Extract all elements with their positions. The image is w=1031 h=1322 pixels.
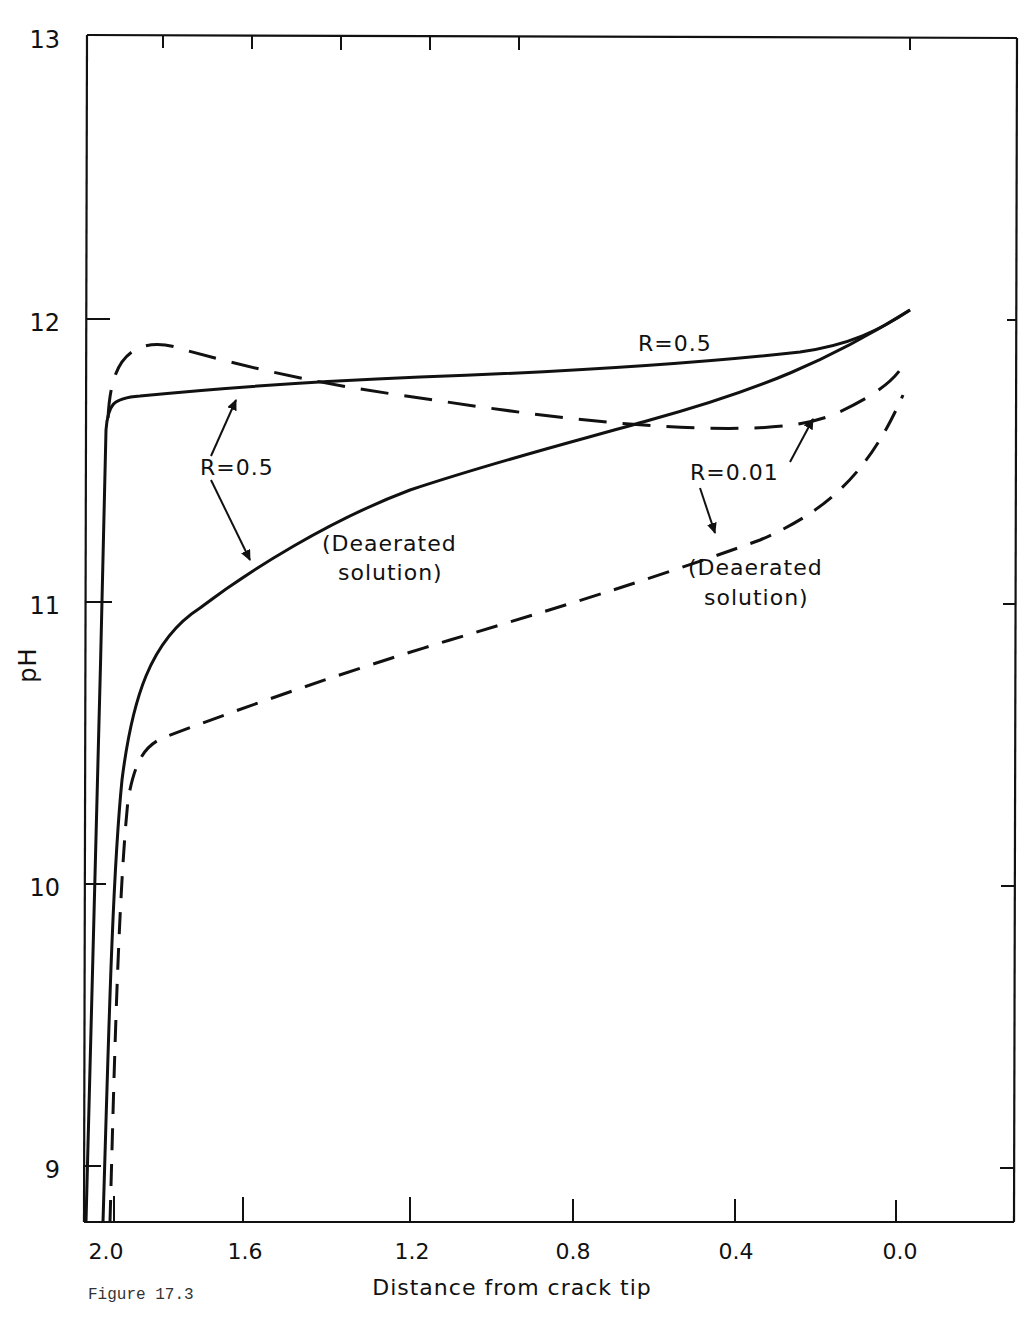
- figure-caption: Figure 17.3: [88, 1286, 194, 1304]
- x-tick-2.0: 2.0: [89, 1239, 124, 1264]
- x-tick-1.2: 1.2: [395, 1239, 430, 1264]
- label-deaerated-2-line1: (Deaerated: [688, 555, 823, 580]
- x-tick-labels: 2.0 1.6 1.2 0.8 0.4 0.0: [89, 1239, 918, 1264]
- y-tick-12: 12: [29, 309, 60, 337]
- y-tick-labels: 13 12 11 10 9: [29, 26, 60, 1184]
- x-axis-ticks: [114, 1196, 896, 1222]
- label-r001: R=0.01: [690, 460, 779, 485]
- y-tick-13: 13: [29, 26, 60, 54]
- plot-frame: [84, 35, 1017, 1222]
- label-deaerated-1-line2: solution): [338, 560, 443, 585]
- x-tick-1.6: 1.6: [228, 1239, 263, 1264]
- curve-r05-deaerated: [103, 310, 910, 1222]
- label-r05-left: R=0.5: [200, 455, 274, 480]
- y-tick-11: 11: [29, 592, 60, 620]
- x-tick-0.4: 0.4: [719, 1239, 754, 1264]
- chart: 13 12 11 10 9 pH 2.0 1.6 1.2 0.8 0.4 0.0…: [0, 0, 1031, 1322]
- curve-r001-dashed: [108, 344, 905, 428]
- label-deaerated-2-line2: solution): [704, 585, 809, 610]
- y-axis-label: pH: [14, 647, 42, 682]
- curve-r05-solid: [86, 310, 910, 1222]
- y-tick-9: 9: [45, 1156, 60, 1184]
- label-r05-top: R=0.5: [638, 331, 712, 356]
- label-deaerated-1-line1: (Deaerated: [322, 531, 457, 556]
- y-tick-10: 10: [29, 874, 60, 902]
- x-tick-0.8: 0.8: [556, 1239, 591, 1264]
- x-tick-0.0: 0.0: [883, 1239, 918, 1264]
- x-axis-label: Distance from crack tip: [372, 1275, 652, 1300]
